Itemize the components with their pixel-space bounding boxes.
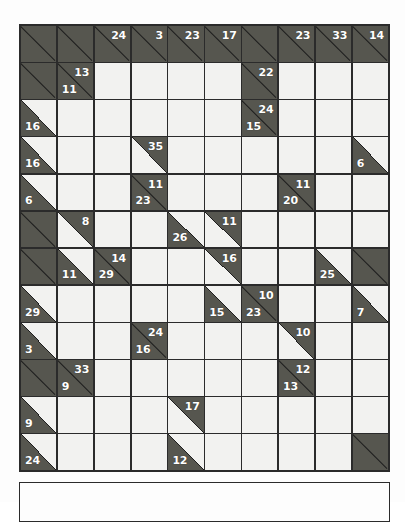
answer-cell[interactable] <box>205 397 240 433</box>
answer-cell[interactable] <box>205 63 240 99</box>
answer-cell[interactable] <box>58 434 93 470</box>
answer-cell[interactable] <box>242 397 277 433</box>
answer-cell[interactable] <box>353 100 388 136</box>
answer-cell[interactable] <box>132 249 167 285</box>
answer-cell[interactable] <box>353 397 388 433</box>
answer-cell[interactable] <box>58 100 93 136</box>
answer-cell[interactable] <box>316 212 351 248</box>
answer-cell[interactable] <box>279 137 314 173</box>
answer-cell[interactable] <box>95 360 130 396</box>
answer-cell[interactable] <box>279 249 314 285</box>
answer-cell[interactable] <box>95 137 130 173</box>
across-clue: 15 <box>246 121 261 132</box>
answer-cell[interactable] <box>205 323 240 359</box>
clue-cell: 6 <box>21 175 56 211</box>
clue-cell: 17 <box>168 397 203 433</box>
clue-cell: 1213 <box>279 360 314 396</box>
answer-cell[interactable] <box>168 249 203 285</box>
answer-cell[interactable] <box>316 323 351 359</box>
answer-cell[interactable] <box>168 323 203 359</box>
answer-cell[interactable] <box>205 137 240 173</box>
clue-cell: 1120 <box>279 175 314 211</box>
clue-cell: 24 <box>21 434 56 470</box>
answer-cell[interactable] <box>353 63 388 99</box>
answer-cell[interactable] <box>242 137 277 173</box>
clue-cell <box>353 249 388 285</box>
answer-cell[interactable] <box>316 397 351 433</box>
across-clue: 25 <box>320 269 335 280</box>
answer-cell[interactable] <box>279 63 314 99</box>
answer-cell[interactable] <box>95 63 130 99</box>
clue-cell: 2415 <box>242 100 277 136</box>
answer-cell[interactable] <box>353 360 388 396</box>
answer-cell[interactable] <box>205 175 240 211</box>
answer-cell[interactable] <box>168 137 203 173</box>
answer-cell[interactable] <box>316 286 351 322</box>
answer-cell[interactable] <box>353 212 388 248</box>
answer-cell[interactable] <box>279 212 314 248</box>
answer-cell[interactable] <box>132 63 167 99</box>
answer-cell[interactable] <box>168 360 203 396</box>
answer-cell[interactable] <box>242 249 277 285</box>
answer-cell[interactable] <box>58 137 93 173</box>
answer-cell[interactable] <box>58 397 93 433</box>
answer-cell[interactable] <box>168 175 203 211</box>
answer-cell[interactable] <box>132 100 167 136</box>
across-clue: 6 <box>357 158 364 169</box>
kakuro-grid: 2432317233314131122162415163566112311208… <box>21 26 388 470</box>
answer-cell[interactable] <box>168 63 203 99</box>
answer-cell[interactable] <box>132 397 167 433</box>
across-clue: 9 <box>25 418 32 429</box>
answer-cell[interactable] <box>132 212 167 248</box>
answer-cell[interactable] <box>95 397 130 433</box>
answer-cell[interactable] <box>316 175 351 211</box>
answer-cell[interactable] <box>242 434 277 470</box>
answer-cell[interactable] <box>168 286 203 322</box>
answer-cell[interactable] <box>58 175 93 211</box>
answer-cell[interactable] <box>279 434 314 470</box>
answer-cell[interactable] <box>95 100 130 136</box>
clue-cell <box>21 212 56 248</box>
answer-cell[interactable] <box>58 323 93 359</box>
answer-cell[interactable] <box>279 397 314 433</box>
down-clue: 17 <box>185 401 200 412</box>
down-clue: 33 <box>332 30 347 41</box>
answer-cell[interactable] <box>242 360 277 396</box>
down-clue: 13 <box>74 67 89 78</box>
across-clue: 6 <box>25 195 32 206</box>
answer-cell[interactable] <box>132 360 167 396</box>
answer-cell[interactable] <box>279 286 314 322</box>
answer-cell[interactable] <box>242 212 277 248</box>
clue-cell: 1429 <box>95 249 130 285</box>
answer-cell[interactable] <box>95 175 130 211</box>
answer-cell[interactable] <box>205 100 240 136</box>
answer-cell[interactable] <box>353 323 388 359</box>
answer-cell[interactable] <box>205 434 240 470</box>
answer-cell[interactable] <box>168 100 203 136</box>
answer-cell[interactable] <box>316 434 351 470</box>
answer-cell[interactable] <box>132 434 167 470</box>
answer-cell[interactable] <box>242 323 277 359</box>
answer-cell[interactable] <box>316 360 351 396</box>
answer-cell[interactable] <box>205 360 240 396</box>
answer-cell[interactable] <box>242 175 277 211</box>
answer-cell[interactable] <box>279 100 314 136</box>
answer-cell[interactable] <box>316 100 351 136</box>
answer-cell[interactable] <box>316 137 351 173</box>
answer-cell[interactable] <box>316 63 351 99</box>
answer-cell[interactable] <box>95 323 130 359</box>
across-clue: 23 <box>136 195 151 206</box>
answer-cell[interactable] <box>95 212 130 248</box>
across-clue: 26 <box>172 232 187 243</box>
down-clue: 22 <box>259 67 274 78</box>
answer-cell[interactable] <box>58 286 93 322</box>
answer-cell[interactable] <box>132 286 167 322</box>
clue-cell: 1023 <box>242 286 277 322</box>
down-clue: 24 <box>111 30 126 41</box>
answer-cell[interactable] <box>95 286 130 322</box>
clue-cell: 1311 <box>58 63 93 99</box>
across-clue: 7 <box>357 307 364 318</box>
answer-cell[interactable] <box>95 434 130 470</box>
clue-cell: 2416 <box>132 323 167 359</box>
answer-cell[interactable] <box>353 175 388 211</box>
